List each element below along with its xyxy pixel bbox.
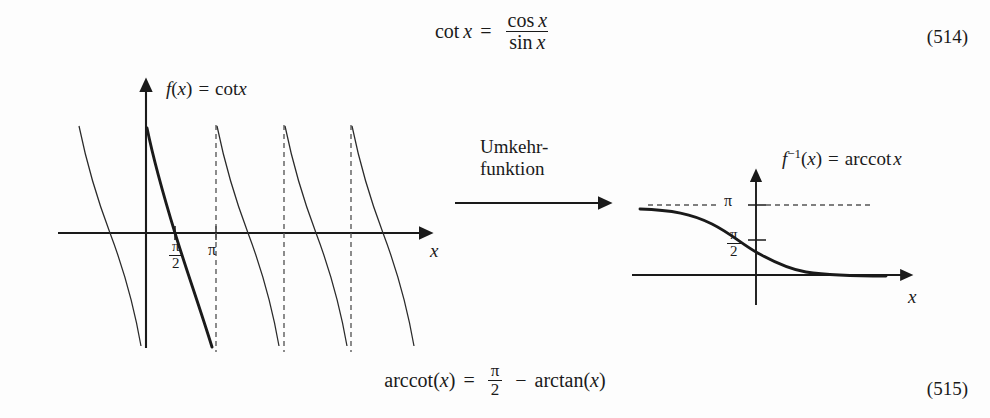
right-plot-tick-label-pi: π [724,192,732,210]
equation-number-515: (515) [927,378,968,400]
right-plot-title-exponent: −1 [787,146,801,161]
arccot-curve [640,209,886,276]
eq-bottom-lhs-open: ( [433,369,440,392]
eq-bottom-lhs: arccot [384,369,433,392]
right-plot-canvas [0,0,990,418]
eq-bottom-fraction: π 2 [488,362,503,399]
right-plot-axes [632,180,902,305]
right-tick-frac-num: π [727,227,741,243]
right-plot-title-func-var: x [893,148,901,169]
equation-arccot-identity: arccot(x) = π 2 − arctan(x) [0,362,990,399]
right-tick-frac: π 2 [727,227,741,260]
eq-bottom-rhs-close: ) [599,369,606,392]
right-plot-tick-label-pi-over-2: π 2 [722,227,746,260]
right-plot-title-var: x [807,148,815,169]
eq-bottom-equals: = [463,369,474,392]
eq-bottom-lhs-var: x [440,369,449,392]
right-plot-x-axis-label: x [908,286,916,308]
eq-bottom-rhs: arctan [535,369,584,392]
right-plot-title-func: arccot [845,148,891,169]
eq-bottom-minus: − [515,369,526,392]
eq-bottom-lhs-close: ) [449,369,456,392]
eq-bottom-frac-num: π [488,362,503,380]
right-plot-title-equals: = [828,148,839,169]
figure-cotangent-arccotangent: cot x = cosx sinx (514) [0,0,990,418]
eq-bottom-frac-den: 2 [488,380,503,399]
right-plot-title: f−1(x)=arccotx [782,146,902,170]
eq-bottom-rhs-var: x [590,369,599,392]
right-tick-frac-den: 2 [727,243,741,260]
right-plot-title-paren-close: ) [816,148,822,169]
